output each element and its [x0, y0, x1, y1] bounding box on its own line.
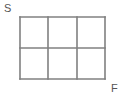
grid-lines	[0, 0, 126, 99]
grid-diagram: S F	[0, 0, 126, 99]
finish-label: F	[111, 83, 118, 94]
